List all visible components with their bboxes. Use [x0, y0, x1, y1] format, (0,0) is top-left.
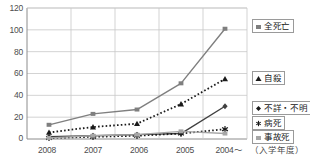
- line-chart: 120 100 80 60 40 20 0 2008 2007 2006 200…: [0, 0, 310, 163]
- legend-item-unknown[interactable]: 不詳・不明: [252, 101, 310, 115]
- legend-item-all-deaths[interactable]: 全死亡: [252, 19, 294, 33]
- legend-item-accident[interactable]: 事故死: [252, 130, 294, 144]
- asterisk-marker-icon: [255, 120, 262, 127]
- legend-label-suicide: 自殺: [264, 73, 281, 83]
- triangle-marker-icon: [255, 75, 262, 82]
- square-marker-icon: [255, 134, 262, 141]
- square-marker-icon: [255, 23, 262, 30]
- legend-label-unknown: 不詳・不明: [264, 103, 308, 113]
- legend-label-illness: 病死: [264, 118, 281, 128]
- legend-item-illness[interactable]: 病死: [252, 116, 285, 130]
- diamond-marker-icon: [255, 105, 262, 112]
- legend-item-suicide[interactable]: 自殺: [252, 71, 285, 85]
- legend-label-all-deaths: 全死亡: [264, 21, 290, 31]
- legend-label-accident: 事故死: [264, 132, 290, 142]
